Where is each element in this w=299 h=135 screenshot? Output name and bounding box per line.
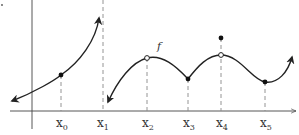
x2-sub: 2 bbox=[149, 123, 154, 132]
filled-point-x3 bbox=[186, 77, 191, 82]
open-point-x2 bbox=[145, 56, 150, 61]
x4-sub: 4 bbox=[223, 123, 228, 132]
function-label: f bbox=[156, 40, 163, 53]
x3-sub: 3 bbox=[190, 123, 195, 132]
filled-point-x5 bbox=[263, 80, 268, 85]
svg-text:x4: x4 bbox=[216, 116, 228, 132]
filled-point-x0 bbox=[59, 73, 64, 78]
svg-text:x3: x3 bbox=[183, 116, 195, 132]
svg-text:x2: x2 bbox=[142, 116, 154, 132]
curve-left-branch bbox=[12, 18, 99, 101]
svg-text:x1: x1 bbox=[97, 116, 109, 132]
filled-point-above-x4 bbox=[219, 36, 224, 41]
corner-dot bbox=[1, 4, 3, 6]
dashed-guides bbox=[61, 0, 265, 111]
curve-right-branch bbox=[108, 55, 292, 102]
x1-sub: 1 bbox=[104, 123, 109, 132]
svg-text:x5: x5 bbox=[260, 116, 272, 132]
x5-sub: 5 bbox=[267, 123, 272, 132]
function-graph: f x0 x1 x2 x3 x4 x5 bbox=[0, 0, 299, 135]
x-tick-labels: x0 x1 x2 x3 x4 x5 bbox=[56, 116, 272, 132]
x0-sub: 0 bbox=[63, 123, 68, 132]
svg-text:x0: x0 bbox=[56, 116, 68, 132]
open-point-x4 bbox=[219, 53, 224, 58]
